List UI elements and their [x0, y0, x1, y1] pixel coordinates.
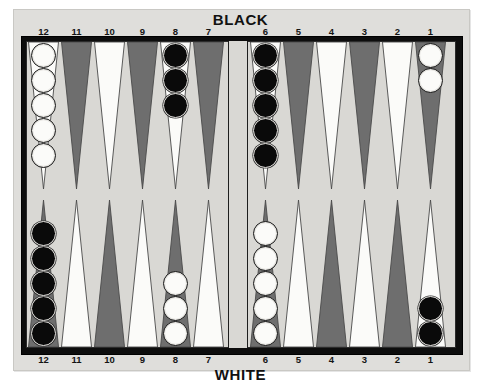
- checker-stack-white-1[interactable]: [414, 42, 447, 193]
- checker-white[interactable]: [253, 221, 278, 246]
- point-5[interactable]: [282, 196, 315, 347]
- point-triangle-5: [282, 42, 315, 193]
- point-3[interactable]: [348, 42, 381, 193]
- checker-white[interactable]: [31, 143, 56, 168]
- checker-black[interactable]: [253, 68, 278, 93]
- point-11[interactable]: [60, 42, 93, 193]
- point-triangle-3: [348, 42, 381, 193]
- checker-white[interactable]: [163, 296, 188, 321]
- point-triangle-9: [126, 42, 159, 193]
- point-1[interactable]: [414, 42, 447, 193]
- point-triangle-3: [348, 196, 381, 347]
- point-8[interactable]: [159, 42, 192, 193]
- checker-black[interactable]: [418, 296, 443, 321]
- checker-black[interactable]: [253, 143, 278, 168]
- bottom-point-label-6: 6: [256, 354, 276, 365]
- point-4[interactable]: [315, 196, 348, 347]
- bottom-point-label-5: 5: [289, 354, 309, 365]
- point-7[interactable]: [192, 196, 225, 347]
- checker-white[interactable]: [31, 118, 56, 143]
- checker-black[interactable]: [418, 321, 443, 346]
- checker-stack-black-1[interactable]: [414, 196, 447, 347]
- checker-stack-white-6[interactable]: [249, 196, 282, 347]
- point-triangle-2: [381, 196, 414, 347]
- bottom-point-label-4: 4: [322, 354, 342, 365]
- checker-stack-black-12[interactable]: [27, 196, 60, 347]
- checker-black[interactable]: [31, 296, 56, 321]
- point-8[interactable]: [159, 196, 192, 347]
- point-triangle-4: [315, 196, 348, 347]
- point-1[interactable]: [414, 196, 447, 347]
- top-left-quadrant: [27, 42, 229, 193]
- checker-white[interactable]: [253, 296, 278, 321]
- checker-black[interactable]: [163, 43, 188, 68]
- checker-white[interactable]: [253, 321, 278, 346]
- point-triangle-11: [60, 42, 93, 193]
- bottom-point-label-7: 7: [199, 354, 219, 365]
- bottom-point-label-11: 11: [67, 354, 87, 365]
- checker-stack-black-6[interactable]: [249, 42, 282, 193]
- bottom-left-quadrant: [27, 196, 229, 347]
- checker-black[interactable]: [31, 221, 56, 246]
- checker-white[interactable]: [31, 93, 56, 118]
- checker-white[interactable]: [31, 68, 56, 93]
- checker-white[interactable]: [253, 271, 278, 296]
- checker-stack-white-12[interactable]: [27, 42, 60, 193]
- bottom-point-label-9: 9: [133, 354, 153, 365]
- checker-black[interactable]: [253, 43, 278, 68]
- point-12[interactable]: [27, 42, 60, 193]
- checker-black[interactable]: [31, 321, 56, 346]
- point-triangle-7: [192, 42, 225, 193]
- point-triangle-10: [93, 42, 126, 193]
- point-12[interactable]: [27, 196, 60, 347]
- point-7[interactable]: [192, 42, 225, 193]
- bottom-point-label-2: 2: [388, 354, 408, 365]
- point-triangle-2: [381, 42, 414, 193]
- point-triangle-5: [282, 196, 315, 347]
- checker-black[interactable]: [163, 68, 188, 93]
- checker-white[interactable]: [31, 43, 56, 68]
- point-3[interactable]: [348, 196, 381, 347]
- checker-black[interactable]: [31, 271, 56, 296]
- checker-black[interactable]: [253, 118, 278, 143]
- checker-white[interactable]: [163, 271, 188, 296]
- bottom-point-label-10: 10: [100, 354, 120, 365]
- point-2[interactable]: [381, 42, 414, 193]
- center-bar[interactable]: [228, 41, 248, 348]
- checker-black[interactable]: [253, 93, 278, 118]
- point-6[interactable]: [249, 42, 282, 193]
- checker-white[interactable]: [418, 43, 443, 68]
- point-9[interactable]: [126, 196, 159, 347]
- point-11[interactable]: [60, 196, 93, 347]
- white-side-label: WHITE: [0, 366, 481, 383]
- point-9[interactable]: [126, 42, 159, 193]
- bottom-right-quadrant: [249, 196, 451, 347]
- backgammon-screenshot: BLACK 121110987654321 121110987654321 WH…: [0, 0, 481, 387]
- point-triangle-4: [315, 42, 348, 193]
- checker-stack-white-8[interactable]: [159, 196, 192, 347]
- point-triangle-9: [126, 196, 159, 347]
- point-triangle-11: [60, 196, 93, 347]
- bottom-point-label-8: 8: [166, 354, 186, 365]
- bottom-point-label-1: 1: [421, 354, 441, 365]
- bottom-point-label-3: 3: [355, 354, 375, 365]
- checker-white[interactable]: [418, 68, 443, 93]
- checker-white[interactable]: [163, 321, 188, 346]
- point-5[interactable]: [282, 42, 315, 193]
- point-10[interactable]: [93, 42, 126, 193]
- point-2[interactable]: [381, 196, 414, 347]
- point-6[interactable]: [249, 196, 282, 347]
- point-10[interactable]: [93, 196, 126, 347]
- top-right-quadrant: [249, 42, 451, 193]
- point-4[interactable]: [315, 42, 348, 193]
- bottom-point-label-12: 12: [34, 354, 54, 365]
- point-triangle-7: [192, 196, 225, 347]
- checker-stack-black-8[interactable]: [159, 42, 192, 193]
- point-triangle-10: [93, 196, 126, 347]
- checker-black[interactable]: [31, 246, 56, 271]
- checker-black[interactable]: [163, 93, 188, 118]
- checker-white[interactable]: [253, 246, 278, 271]
